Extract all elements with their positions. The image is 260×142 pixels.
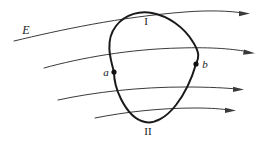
field-line-2-arrowhead — [243, 50, 255, 55]
diagram-svg — [0, 0, 260, 142]
arc-label-two: II — [144, 126, 151, 137]
closed-contour-group — [109, 12, 198, 122]
point-a-marker — [111, 69, 116, 74]
point-label-a: a — [103, 67, 109, 78]
point-label-b: b — [202, 59, 208, 70]
field-lines-group — [14, 11, 255, 118]
field-line-3-arrowhead — [233, 87, 244, 92]
field-line-2 — [44, 48, 249, 68]
closed-contour — [109, 12, 198, 122]
point-b-marker — [193, 61, 198, 66]
field-line-3 — [58, 87, 237, 100]
field-line-4-arrowhead — [225, 108, 236, 113]
arc-label-one: I — [144, 16, 148, 27]
marked-points-group — [111, 61, 198, 74]
field-line-1-arrowhead — [239, 11, 250, 16]
figure-canvas: E I II a b — [0, 0, 260, 142]
field-line-4 — [95, 108, 229, 118]
field-label-E: E — [22, 24, 29, 36]
